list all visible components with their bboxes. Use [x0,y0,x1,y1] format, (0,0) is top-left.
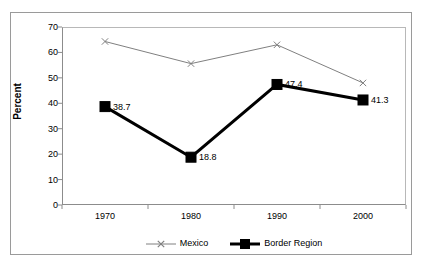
data-point-label: 41.3 [371,95,389,104]
x-axis-tick-labels: 1970198019902000 [62,212,406,226]
y-axis-tick-label: 0 [30,201,58,210]
legend-label: Mexico [180,239,209,248]
plot-canvas [62,27,406,205]
y-axis-tick-label: 60 [30,48,58,57]
data-point-label: 18.8 [199,153,217,162]
y-axis-tick-labels: 706050403020100 [25,27,58,205]
x-axis-tick-label: 2000 [320,212,406,226]
x-marker-icon [146,238,176,250]
data-point-label: 47.4 [285,80,303,89]
series-line-border-region [105,84,363,157]
y-axis-tick-label: 30 [30,124,58,133]
square-marker-icon [230,238,260,250]
y-axis-tick-label: 10 [30,175,58,184]
x-axis-tick-label: 1970 [62,212,148,226]
series-line-mexico [105,41,363,82]
square-marker-icon [272,79,282,89]
chart-container: Percent 706050403020100 38.718.847.441.3… [0,0,425,268]
legend-label: Border Region [264,239,322,248]
legend-item: Mexico [146,238,209,250]
y-axis-title: Percent [12,72,23,132]
y-axis-tick-label: 40 [30,99,58,108]
y-axis-tick-label: 50 [30,73,58,82]
chart-legend: MexicoBorder Region [62,236,406,251]
square-marker-icon [186,152,196,162]
y-axis-tick-label: 20 [30,150,58,159]
x-axis-tick-label: 1990 [234,212,320,226]
square-marker-icon [100,102,110,112]
square-marker-icon [358,95,368,105]
legend-item: Border Region [230,238,322,250]
data-point-label: 38.7 [113,102,131,111]
x-axis-tick-label: 1980 [148,212,234,226]
y-axis-tick-label: 70 [30,23,58,32]
